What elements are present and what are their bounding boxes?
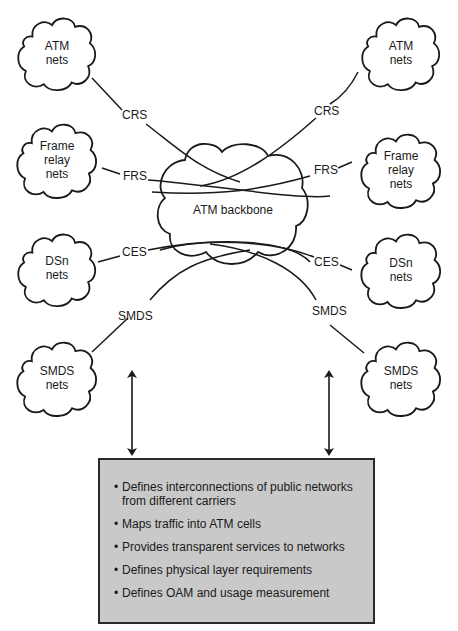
cloud-line: nets [45,53,69,67]
info-item: Maps traffic into ATM cells [114,517,362,531]
right-atm-cloud-label: ATM nets [389,39,413,67]
info-item: Defines interconnections of public netwo… [114,480,362,508]
backbone-label: ATM backbone [193,203,273,217]
right-crs-label: CRS [314,104,339,118]
right-ces-label: CES [314,255,339,269]
left-atm-cloud-label: ATM nets [45,39,69,67]
left-frame-relay-cloud-label: Frame relay nets [40,139,75,181]
cloud-line: relay [384,163,419,177]
cloud-line: nets [40,167,75,181]
cloud-line: Frame [384,149,419,163]
left-dsn-cloud-label: DSn nets [45,254,68,282]
right-smds-label: SMDS [312,304,347,318]
info-item: Defines OAM and usage measurement [114,586,362,600]
cloud-line: ATM [389,39,413,53]
cloud-line: ATM [45,39,69,53]
right-smds-cloud-label: SMDS nets [384,364,419,392]
cloud-line: nets [384,378,419,392]
left-crs-label: CRS [122,108,147,122]
cloud-line: DSn [389,256,412,270]
info-box: Defines interconnections of public netwo… [98,458,375,624]
cloud-line: SMDS [40,364,75,378]
cloud-line: nets [389,270,412,284]
cloud-line: nets [384,177,419,191]
cloud-line: SMDS [384,364,419,378]
info-item: Defines physical layer requirements [114,563,362,577]
right-frame-relay-cloud-label: Frame relay nets [384,149,419,191]
info-item: Provides transparent services to network… [114,540,362,554]
cloud-line: DSn [45,254,68,268]
right-frs-label: FRS [314,163,338,177]
left-ces-label: CES [122,245,147,259]
left-frs-label: FRS [123,169,147,183]
info-list: Defines interconnections of public netwo… [114,480,362,609]
cloud-line: nets [389,53,413,67]
left-smds-label: SMDS [118,309,153,323]
cloud-line: Frame [40,139,75,153]
cloud-line: nets [40,378,75,392]
right-dsn-cloud-label: DSn nets [389,256,412,284]
left-smds-cloud-label: SMDS nets [40,364,75,392]
cloud-line: nets [45,268,68,282]
cloud-line: relay [40,153,75,167]
